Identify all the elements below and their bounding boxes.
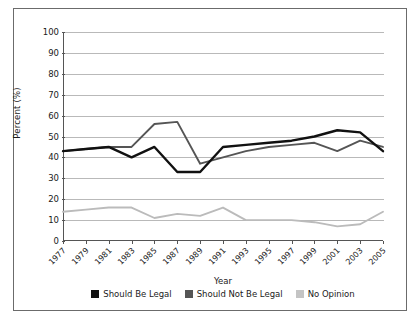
legend-item[interactable]: Should Not Be Legal — [185, 289, 283, 299]
x-tick-mark — [154, 241, 155, 244]
y-tick-mark — [62, 157, 65, 158]
y-tick-mark — [62, 199, 65, 200]
plot-wrapper: Percent (%) 0102030405060708090100 19771… — [0, 0, 420, 319]
legend-label: No Opinion — [308, 289, 355, 299]
legend-swatch-icon — [185, 290, 193, 298]
series-line — [63, 122, 383, 164]
x-tick-mark — [337, 241, 338, 244]
x-tick-mark — [223, 241, 224, 244]
legend-item[interactable]: No Opinion — [296, 289, 355, 299]
legend-label: Should Be Legal — [103, 289, 171, 299]
x-tick-mark — [132, 241, 133, 244]
legend-swatch-icon — [296, 290, 304, 298]
y-tick-mark — [62, 74, 65, 75]
x-tick-mark — [109, 241, 110, 244]
x-tick-mark — [246, 241, 247, 244]
x-tick-mark — [292, 241, 293, 244]
y-tick-mark — [62, 220, 65, 221]
legend-swatch-icon — [91, 290, 99, 298]
y-tick-mark — [62, 137, 65, 138]
x-tick-mark — [200, 241, 201, 244]
x-tick-mark — [269, 241, 270, 244]
y-tick-mark — [62, 241, 65, 242]
x-axis-title: Year — [63, 276, 383, 286]
legend-item[interactable]: Should Be Legal — [91, 289, 171, 299]
x-tick-mark — [177, 241, 178, 244]
x-tick-mark — [86, 241, 87, 244]
chart-figure: Percent (%) 0102030405060708090100 19771… — [0, 0, 420, 319]
y-tick-mark — [62, 32, 65, 33]
chart-legend: Should Be LegalShould Not Be LegalNo Opi… — [63, 289, 383, 299]
y-tick-mark — [62, 116, 65, 117]
data-series-layer — [0, 0, 420, 319]
x-tick-mark — [383, 241, 384, 244]
x-tick-mark — [314, 241, 315, 244]
series-line — [63, 208, 383, 227]
y-tick-mark — [62, 95, 65, 96]
y-tick-mark — [62, 178, 65, 179]
y-tick-mark — [62, 53, 65, 54]
legend-label: Should Not Be Legal — [197, 289, 283, 299]
x-tick-mark — [360, 241, 361, 244]
